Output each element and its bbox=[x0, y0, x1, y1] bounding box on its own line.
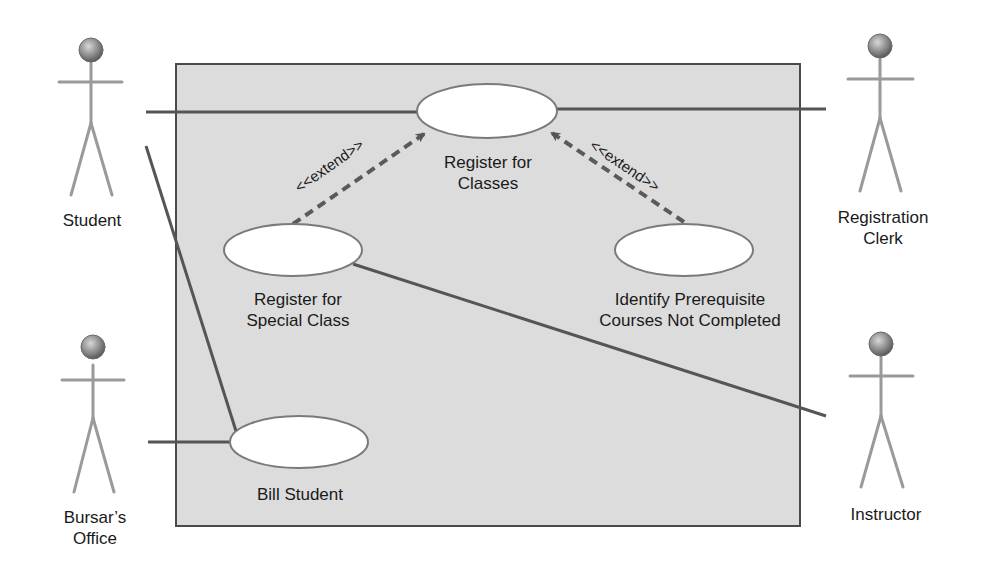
actor-instructor-icon[interactable] bbox=[850, 332, 913, 487]
actor-label-bursars-office-line2: Office bbox=[64, 528, 127, 549]
use-case-diagram bbox=[0, 0, 983, 570]
actor-label-registration-clerk-line2: Clerk bbox=[838, 228, 929, 249]
actor-student-icon[interactable] bbox=[59, 38, 122, 195]
usecase-identify-prerequisite[interactable] bbox=[615, 224, 753, 276]
usecase-label-bill-student-line1: Bill Student bbox=[257, 484, 343, 505]
usecase-label-special-class-line1: Register for bbox=[247, 289, 350, 310]
usecase-register-for-special-class[interactable] bbox=[224, 224, 362, 276]
usecase-label-special-class-line2: Special Class bbox=[247, 310, 350, 331]
actor-label-bursars-office: Bursar’s Office bbox=[64, 507, 127, 549]
usecase-label-register-for-classes-line1: Register for bbox=[444, 152, 532, 173]
usecase-register-for-classes[interactable] bbox=[417, 84, 557, 138]
usecase-bill-student[interactable] bbox=[230, 416, 368, 468]
actor-label-registration-clerk: Registration Clerk bbox=[838, 207, 929, 249]
actor-label-instructor: Instructor bbox=[851, 504, 922, 525]
usecase-label-prerequisite-line1: Identify Prerequisite bbox=[599, 289, 780, 310]
actor-label-student: Student bbox=[63, 210, 122, 231]
actor-label-instructor-text: Instructor bbox=[851, 505, 922, 524]
usecase-label-register-for-classes-line2: Classes bbox=[444, 173, 532, 194]
actor-registration-clerk-icon[interactable] bbox=[848, 34, 913, 191]
usecase-label-register-for-special-class: Register for Special Class bbox=[247, 289, 350, 331]
usecase-label-prerequisite-line2: Courses Not Completed bbox=[599, 310, 780, 331]
usecase-label-bill-student: Bill Student bbox=[257, 484, 343, 505]
usecase-label-identify-prerequisite: Identify Prerequisite Courses Not Comple… bbox=[599, 289, 780, 331]
actor-label-student-text: Student bbox=[63, 211, 122, 230]
actor-label-bursars-office-line1: Bursar’s bbox=[64, 507, 127, 528]
usecase-label-register-for-classes: Register for Classes bbox=[444, 152, 532, 194]
actor-bursars-office-icon[interactable] bbox=[62, 335, 124, 492]
actor-label-registration-clerk-line1: Registration bbox=[838, 207, 929, 228]
